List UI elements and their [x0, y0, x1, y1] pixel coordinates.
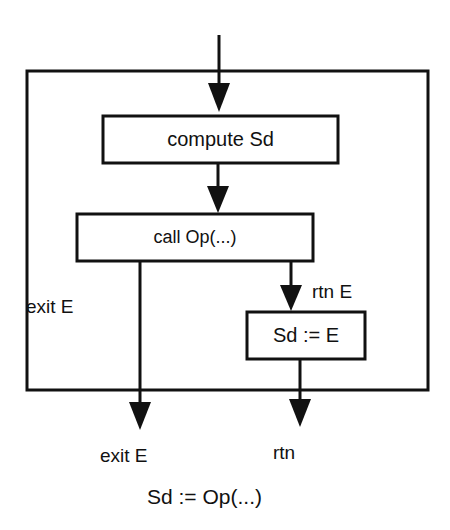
- entry-arrowhead-icon: [208, 83, 230, 112]
- exit-arrowhead-icon: [129, 402, 151, 430]
- call-box-label: call Op(...): [153, 227, 236, 248]
- compute-to-call-arrowhead-icon: [207, 186, 229, 213]
- compute-box: compute Sd: [103, 116, 338, 163]
- rtn-arrowhead-icon: [289, 399, 311, 427]
- compute-box-label: compute Sd: [167, 128, 274, 151]
- exit-output-label: exit E: [100, 446, 148, 465]
- rtn-e-arrowhead-icon: [280, 285, 302, 311]
- flowchart-canvas: [0, 0, 450, 530]
- diagram-caption: Sd := Op(...): [147, 486, 262, 507]
- exit-edge-label: exit E: [26, 297, 74, 316]
- assign-box-label: Sd := E: [273, 324, 339, 347]
- call-box: call Op(...): [77, 214, 313, 261]
- rtn-e-edge-label: rtn E: [312, 282, 352, 301]
- assign-box: Sd := E: [247, 312, 365, 359]
- rtn-output-label: rtn: [273, 443, 295, 462]
